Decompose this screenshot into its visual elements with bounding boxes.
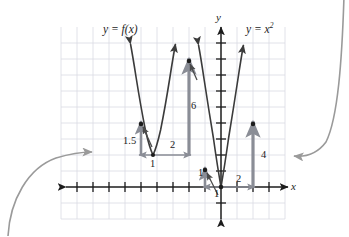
point-x2-right (251, 122, 256, 127)
point-fx-right (187, 59, 192, 64)
left-callout-arrow (8, 152, 92, 236)
pointer-arrows (143, 64, 218, 195)
measure-label-run-x2-left: 1 (214, 189, 219, 200)
point-x2-left (203, 168, 208, 173)
curve-label-x2-exponent: 2 (270, 21, 274, 30)
measure-label-run-fx-right: 2 (170, 140, 175, 151)
pointer-to-fx-top (190, 64, 197, 80)
measure-label-rise-x2-left: 1 (198, 168, 203, 179)
point-fx-vertex (151, 153, 155, 157)
measure-label-run-fx: 1 (150, 159, 155, 170)
measure-label-rise-fx-right: 6 (191, 101, 196, 112)
curve-fx (131, 44, 176, 155)
point-fx-left (139, 122, 144, 127)
callout-arrows (8, 0, 344, 236)
graph-canvas (0, 0, 349, 237)
curve-label-fx: y = f(x) (103, 24, 138, 36)
measure-label-rise-x2-right: 4 (261, 150, 266, 161)
y-axis-label: y (216, 12, 221, 23)
x-axis-label: x (291, 181, 296, 192)
measure-label-rise-fx-left: 1.5 (123, 136, 136, 147)
right-callout-arrow (294, 0, 344, 156)
measure-label-run-x2-right: 2 (236, 174, 241, 185)
math-figure: y = f(x) y = x2 y x 1.5 1 2 6 1 1 2 4 (0, 0, 349, 237)
point-x2-vertex (219, 185, 224, 190)
curve-label-x2-base: y = x (246, 23, 270, 35)
curve-label-x2: y = x2 (246, 22, 273, 35)
pointer-to-fx-point (143, 127, 152, 147)
